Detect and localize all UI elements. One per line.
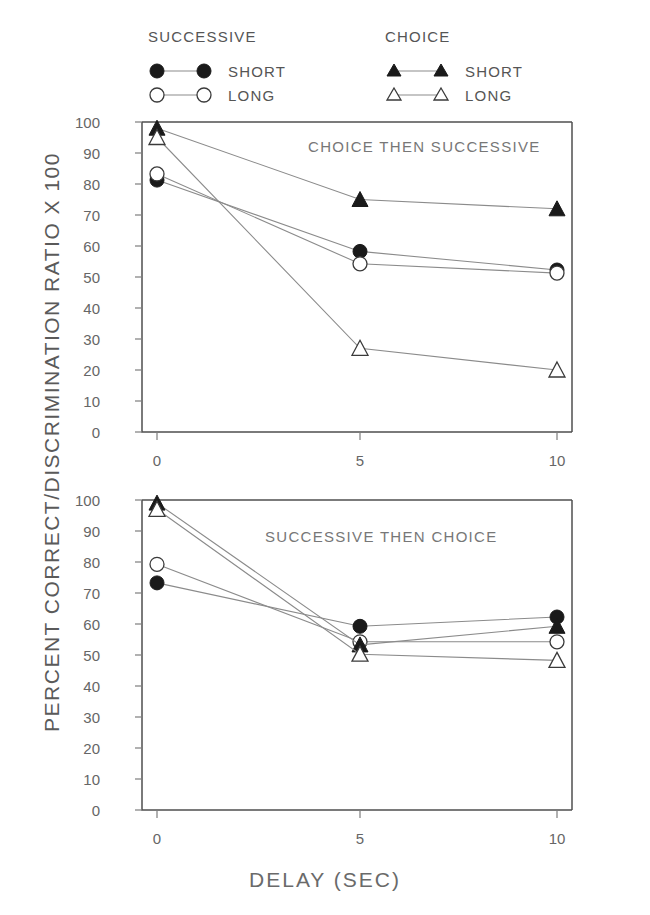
bottom-panel-plot [110,494,580,824]
bottom-ytick-60: 60 [58,616,100,633]
legend-item: SHORT [148,59,286,83]
top-xtick-0: 0 [137,452,177,469]
bottom-ytick-10: 10 [58,771,100,788]
bottom-ytick-50: 50 [58,647,100,664]
bottom-xtick-5: 5 [340,830,380,847]
top-ytick-20: 20 [58,362,100,379]
bottom-ytick-90: 90 [58,523,100,540]
bottom-ytick-100: 100 [52,492,100,509]
bottom-ytick-70: 70 [58,585,100,602]
bottom-ytick-20: 20 [58,740,100,757]
bottom-x-ticks [157,810,557,818]
legend-item: LONG [148,83,286,107]
top-xtick-5: 5 [340,452,380,469]
bottom-xtick-10: 10 [537,830,577,847]
top-ytick-30: 30 [58,331,100,348]
top-ytick-0: 0 [58,424,100,441]
top-panel-plot [110,116,580,446]
bottom-ytick-80: 80 [58,554,100,571]
x-axis-label: DELAY (SEC) [0,868,650,892]
legend-group-title: CHOICE [385,28,523,45]
top-ytick-90: 90 [58,145,100,162]
bottom-ytick-40: 40 [58,678,100,695]
open-triangle-marker [385,84,459,106]
series-successive-long [150,167,564,280]
open-circle-marker [148,84,222,106]
legend-group-successive: SUCCESSIVE SHORT LONG [148,28,286,107]
series-successive-short [150,576,564,633]
top-ytick-50: 50 [58,269,100,286]
top-ytick-80: 80 [58,176,100,193]
filled-triangle-marker [385,60,459,82]
top-y-ticks [135,122,142,432]
legend-group-choice: CHOICE SHORT LONG [385,28,523,107]
series-successive-long [150,557,564,649]
legend-item-label: SHORT [228,63,286,80]
top-xtick-10: 10 [537,452,577,469]
top-ytick-40: 40 [58,300,100,317]
filled-circle-marker [148,60,222,82]
bottom-ytick-0: 0 [58,802,100,819]
legend-item-label: SHORT [465,63,523,80]
bottom-xtick-0: 0 [137,830,177,847]
top-ytick-70: 70 [58,207,100,224]
legend-item-label: LONG [228,87,275,104]
series-choice-short [149,120,565,216]
top-ytick-60: 60 [58,238,100,255]
legend-item-label: LONG [465,87,512,104]
legend-item: LONG [385,83,523,107]
top-x-ticks [157,432,557,440]
top-ytick-100: 100 [52,114,100,131]
bottom-ytick-30: 30 [58,709,100,726]
figure-container: SUCCESSIVE SHORT LONG [0,0,650,915]
legend-item: SHORT [385,59,523,83]
legend-group-title: SUCCESSIVE [148,28,286,45]
top-ytick-10: 10 [58,393,100,410]
bottom-y-ticks [135,500,142,810]
